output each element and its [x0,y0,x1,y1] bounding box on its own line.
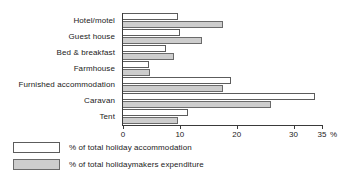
x-axis-tick [237,125,238,129]
bar-group [123,45,337,61]
chart-figure: Hotel/motel Guest house Bed & breakfast … [0,0,346,177]
bar-group [123,77,337,93]
category-label: Tent [0,109,119,125]
bar-expenditure [123,117,178,124]
x-axis-tick-label: 0 [121,130,125,139]
bar-expenditure [123,53,174,60]
x-axis-tick [322,125,323,129]
legend-label: % of total holiday accommodation [69,143,192,152]
category-label: Furnished accommodation [0,77,119,93]
legend: % of total holiday accommodation % of to… [13,139,204,173]
x-axis-tick [123,125,124,129]
category-axis-labels: Hotel/motel Guest house Bed & breakfast … [0,13,119,125]
bar-accommodation [123,13,178,20]
bar-group [123,61,337,77]
x-axis-tick-label: 10 [175,130,184,139]
x-axis-tick-label: 30 [289,130,298,139]
bars-container [123,13,337,125]
legend-swatch-expenditure [13,159,60,170]
x-axis-tick [180,125,181,129]
bar-accommodation [123,93,315,100]
plot-area: Hotel/motel Guest house Bed & breakfast … [0,0,346,131]
category-label: Farmhouse [0,61,119,77]
bar-expenditure [123,101,271,108]
bar-accommodation [123,61,149,68]
bar-accommodation [123,109,188,116]
x-axis-tick-label: 20 [232,130,241,139]
bar-group [123,93,337,109]
x-axis-line [123,125,322,126]
bar-accommodation [123,77,231,84]
bar-expenditure [123,69,150,76]
bar-expenditure [123,37,202,44]
legend-label: % of total holidaymakers expenditure [69,160,204,169]
bar-expenditure [123,85,223,92]
x-axis-unit-suffix: % [330,130,337,139]
bar-group [123,29,337,45]
legend-swatch-accommodation [13,142,60,153]
category-label: Bed & breakfast [0,45,119,61]
bar-accommodation [123,45,166,52]
bar-group [123,109,337,125]
x-axis-tick [294,125,295,129]
bar-group [123,13,337,29]
bar-expenditure [123,21,223,28]
bar-accommodation [123,29,180,36]
x-axis-tick-label: 35 [318,130,327,139]
legend-item: % of total holiday accommodation [13,139,204,156]
category-label: Caravan [0,93,119,109]
category-label: Guest house [0,29,119,45]
category-label: Hotel/motel [0,13,119,29]
legend-item: % of total holidaymakers expenditure [13,156,204,173]
